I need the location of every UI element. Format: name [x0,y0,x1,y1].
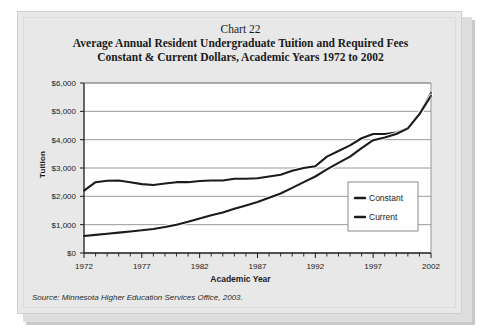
x-tick-label: 1987 [249,262,267,271]
chart-legend[interactable]: ConstantCurrent [348,182,418,231]
source-note: Source: Minnesota Higher Education Servi… [32,293,243,302]
x-tick-label: 2002 [422,262,440,271]
x-tick-label: 1982 [191,262,209,271]
x-tick-label: 1977 [133,262,151,271]
line-chart-svg: $0$1,000$2,000$3,000$4,000$5,000$6,000 1… [18,12,463,315]
legend-label-constant[interactable]: Constant [369,193,404,203]
y-axis-title: Tuition [38,135,47,195]
x-tick-label: 1992 [306,262,324,271]
y-tick-label: $2,000 [52,192,77,201]
chart-page: Chart 22 Average Annual Resident Undergr… [0,0,488,335]
y-axis-ticks: $0$1,000$2,000$3,000$4,000$5,000$6,000 [52,79,84,258]
y-tick-label: $3,000 [52,164,77,173]
x-axis-ticks: 1972197719821987199219972002 [75,253,440,271]
x-tick-label: 1997 [364,262,382,271]
x-tick-label: 1972 [75,262,93,271]
y-tick-label: $5,000 [52,107,77,116]
chart-card: Chart 22 Average Annual Resident Undergr… [17,11,462,314]
legend-box [348,182,418,231]
y-tick-label: $0 [67,249,76,258]
legend-label-current[interactable]: Current [369,212,398,222]
y-tick-label: $6,000 [52,79,77,88]
plot-area-wrapper: $0$1,000$2,000$3,000$4,000$5,000$6,000 1… [18,12,463,315]
x-axis-title: Academic Year [18,274,463,284]
y-tick-label: $1,000 [52,221,77,230]
y-tick-label: $4,000 [52,136,77,145]
